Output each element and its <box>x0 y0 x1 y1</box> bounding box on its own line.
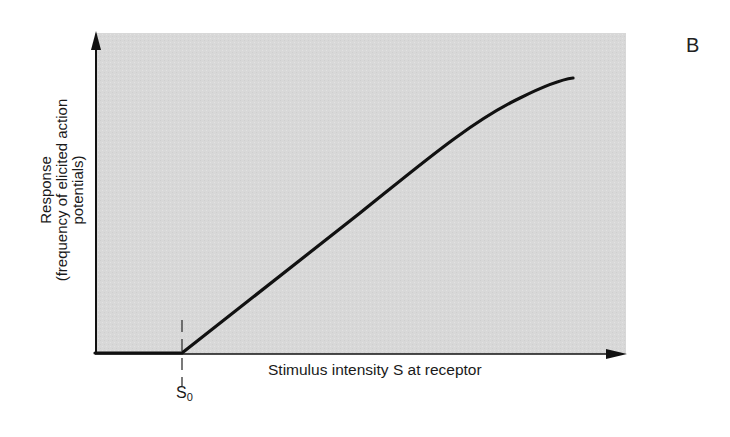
y-axis-label-line1: Response <box>38 75 54 305</box>
figure: Response (frequency of elicited action p… <box>0 0 730 437</box>
threshold-subscript: 0 <box>187 391 193 403</box>
panel-label: B <box>686 34 699 57</box>
y-axis-label-line2: (frequency of elicited action <box>54 75 70 305</box>
y-axis-label-line3: potentials) <box>70 75 86 305</box>
y-axis-label: Response (frequency of elicited action p… <box>38 75 86 305</box>
plot-area <box>95 33 626 354</box>
threshold-label: S0 <box>176 384 193 403</box>
threshold-symbol: S <box>176 384 187 401</box>
x-axis-label: Stimulus intensity S at receptor <box>268 361 482 379</box>
